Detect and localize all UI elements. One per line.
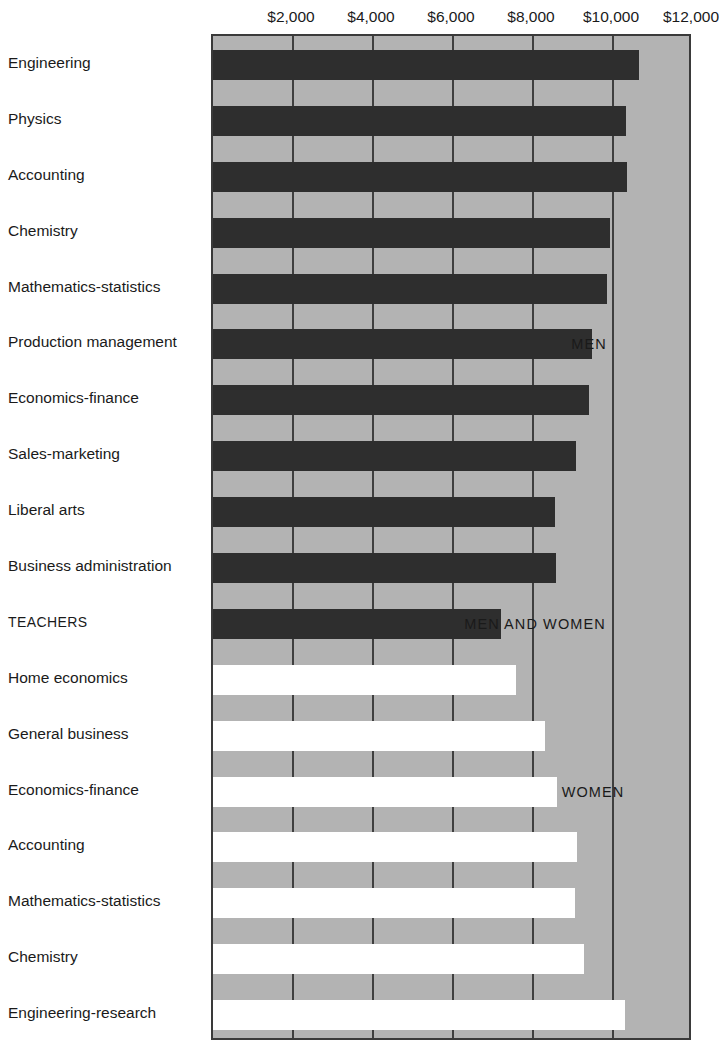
- category-label: Liberal arts: [8, 501, 85, 519]
- bar: [213, 497, 555, 527]
- scan-artifact-text: [4, 0, 194, 7]
- category-axis-labels: EngineeringPhysicsAccountingChemistryMat…: [0, 34, 205, 1040]
- bar: [213, 553, 556, 583]
- group-annotation: MEN AND WOMEN: [464, 616, 606, 632]
- category-label: Accounting: [8, 166, 85, 184]
- plot-inner: MENMEN AND WOMENWOMEN: [213, 36, 689, 1038]
- category-label: Economics-finance: [8, 389, 139, 407]
- category-label: Physics: [8, 110, 61, 128]
- bar: [213, 162, 627, 192]
- bar: [213, 944, 584, 974]
- category-label: Business administration: [8, 557, 172, 575]
- bar: [213, 274, 607, 304]
- category-label: Accounting: [8, 836, 85, 854]
- category-label: Mathematics-statistics: [8, 278, 160, 296]
- x-tick-label: $2,000: [267, 8, 314, 26]
- bar: [213, 50, 639, 80]
- category-label: Chemistry: [8, 222, 78, 240]
- x-tick-label: $8,000: [507, 8, 554, 26]
- bar: [213, 1000, 625, 1030]
- category-label: Engineering: [8, 54, 91, 72]
- x-axis-tick-labels: $2,000$4,000$6,000$8,000$10,000$12,000: [0, 8, 717, 30]
- bar: [213, 721, 545, 751]
- bar: [213, 218, 610, 248]
- category-label: General business: [8, 725, 129, 743]
- bar: [213, 385, 589, 415]
- plot-area: MENMEN AND WOMENWOMEN: [211, 34, 691, 1040]
- bar: [213, 665, 516, 695]
- bar: [213, 609, 501, 639]
- bar: [213, 777, 557, 807]
- x-tick-label: $10,000: [583, 8, 639, 26]
- bar: [213, 832, 577, 862]
- bar: [213, 441, 576, 471]
- group-annotation: WOMEN: [562, 784, 625, 800]
- group-annotation: MEN: [571, 336, 607, 352]
- category-label: TEACHERS: [8, 613, 87, 631]
- category-label: Chemistry: [8, 948, 78, 966]
- x-tick-label: $12,000: [663, 8, 719, 26]
- bar: [213, 106, 626, 136]
- category-label: Home economics: [8, 669, 128, 687]
- category-label: Sales-marketing: [8, 445, 120, 463]
- category-label: Production management: [8, 333, 177, 351]
- x-tick-label: $4,000: [347, 8, 394, 26]
- category-label: Mathematics-statistics: [8, 892, 160, 910]
- bar: [213, 888, 575, 918]
- x-tick-label: $6,000: [427, 8, 474, 26]
- bar: [213, 329, 592, 359]
- category-label: Engineering-research: [8, 1004, 156, 1022]
- category-label: Economics-finance: [8, 781, 139, 799]
